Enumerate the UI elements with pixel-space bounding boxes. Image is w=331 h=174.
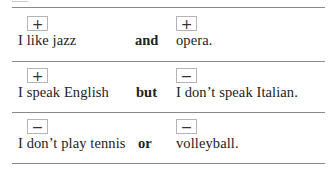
- plus-sign-box: +: [27, 16, 48, 31]
- table-row: − I don’t play tennis or − volleyball.: [0, 113, 331, 164]
- conjunction: or: [138, 135, 152, 152]
- left-clause: I don’t play tennis: [18, 135, 126, 152]
- conjunction: but: [136, 84, 157, 101]
- table-rule-bottom: [12, 163, 325, 164]
- minus-sign-box: −: [176, 119, 197, 134]
- cut-off-box-fragment: [12, 1, 28, 2]
- right-clause: opera.: [176, 32, 212, 49]
- conjunction: and: [135, 32, 158, 49]
- table-row: + I speak English but − I don’t speak It…: [0, 62, 331, 113]
- plus-sign-box: +: [27, 68, 48, 83]
- minus-sign-box: −: [27, 119, 48, 134]
- left-clause: I like jazz: [18, 32, 76, 49]
- left-clause: I speak English: [18, 84, 109, 101]
- right-clause: volleyball.: [176, 135, 239, 152]
- plus-sign-box: +: [176, 16, 197, 31]
- right-clause: I don’t speak Italian.: [176, 84, 298, 101]
- minus-sign-box: −: [176, 68, 197, 83]
- table-row: + I like jazz and + opera.: [0, 8, 331, 59]
